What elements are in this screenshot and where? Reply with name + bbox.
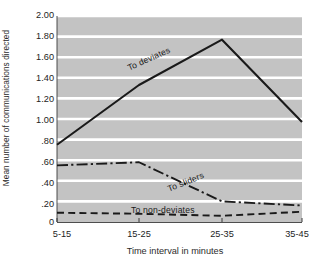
x-tick-label: 5-15 [53,229,71,239]
chart-figure: Mean number of communications directed 2… [0,0,326,268]
x-tick-label: 25-35 [210,229,234,239]
plot-svg [0,0,326,268]
x-axis-ticks: 5-15 15-25 25-35 35-45 [0,229,326,243]
x-tick-label: 35-45 [285,229,309,239]
x-tick-label: 15-25 [127,229,151,239]
x-axis-title: Time interval in minutes [127,246,224,256]
x-axis-title-wrapper: Time interval in minutes [0,246,326,256]
series-label-to-non-deviates: To non-deviates [131,205,195,215]
